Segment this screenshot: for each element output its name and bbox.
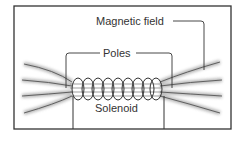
left-field-lines — [22, 64, 72, 113]
poles-label: Poles — [103, 47, 131, 59]
magnetic-field-label: Magnetic field — [96, 15, 164, 27]
right-field-lines — [160, 62, 222, 113]
magnetic-field-leader — [173, 21, 204, 70]
solenoid-coil — [72, 78, 162, 100]
solenoid-label: Solenoid — [95, 102, 138, 114]
solenoid-diagram: Magnetic field Poles Solenoid — [0, 0, 246, 141]
